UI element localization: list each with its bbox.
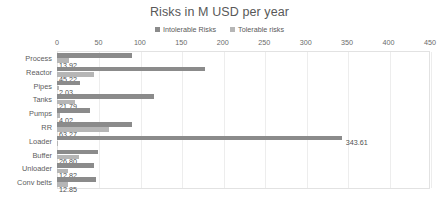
- category-label: Conv belts: [17, 178, 52, 187]
- category-label: RR: [41, 122, 52, 131]
- chart-legend: Intolerable RisksTolerable risks: [0, 25, 439, 34]
- chart-title: Risks in M USD per year: [0, 5, 439, 19]
- bar-intolerable[interactable]: [57, 122, 132, 127]
- x-axis-tick-label: 300: [300, 38, 312, 47]
- legend-label: Intolerable Risks: [163, 25, 216, 34]
- category-label: Pumps: [29, 109, 52, 118]
- x-axis-tick-label: 150: [175, 38, 187, 47]
- x-axis-tick-label: 100: [134, 38, 146, 47]
- bar-tolerable[interactable]: [57, 141, 58, 146]
- x-axis-tick-label: 450: [424, 38, 436, 47]
- chart-container: Risks in M USD per year Intolerable Risk…: [0, 0, 439, 200]
- bar-intolerable[interactable]: [57, 108, 90, 113]
- bar-intolerable[interactable]: [57, 136, 342, 141]
- bar-value-label: 343.61: [346, 138, 368, 147]
- x-axis-tick-labels: 050100150200250300350400450: [0, 38, 439, 50]
- bar-intolerable[interactable]: [57, 163, 94, 168]
- legend-swatch-icon: [155, 27, 160, 32]
- legend-entry[interactable]: Intolerable Risks: [155, 25, 216, 34]
- category-label: Pipes: [34, 81, 53, 90]
- y-axis-category-labels: ProcessReactorPipesTanksPumpsRRLoaderBuf…: [0, 51, 55, 189]
- category-label: Process: [25, 53, 52, 62]
- bar-intolerable[interactable]: [57, 67, 205, 72]
- x-axis-tick-label: 250: [258, 38, 270, 47]
- bars-layer: 13.9245.222.0321.794.0263.27343.6126.801…: [57, 51, 430, 189]
- category-label: Buffer: [32, 150, 52, 159]
- legend-entry[interactable]: Tolerable risks: [230, 25, 284, 34]
- legend-swatch-icon: [230, 27, 235, 32]
- x-axis-tick-label: 400: [383, 38, 395, 47]
- x-axis-tick-label: 350: [341, 38, 353, 47]
- category-label: Reactor: [26, 67, 52, 76]
- gridline: [431, 52, 432, 188]
- x-axis-tick-label: 50: [94, 38, 102, 47]
- x-axis-tick-label: 0: [55, 38, 59, 47]
- category-label: Loader: [29, 136, 52, 145]
- bar-intolerable[interactable]: [57, 177, 96, 182]
- bar-intolerable[interactable]: [57, 53, 132, 58]
- bar-value-label: 12.85: [59, 184, 77, 193]
- x-axis-tick-label: 200: [217, 38, 229, 47]
- category-label: Unloader: [22, 164, 52, 173]
- legend-label: Tolerable risks: [238, 25, 284, 34]
- bar-intolerable[interactable]: [57, 150, 98, 155]
- category-label: Tanks: [33, 95, 52, 104]
- bar-intolerable[interactable]: [57, 94, 154, 99]
- bar-intolerable[interactable]: [57, 81, 80, 86]
